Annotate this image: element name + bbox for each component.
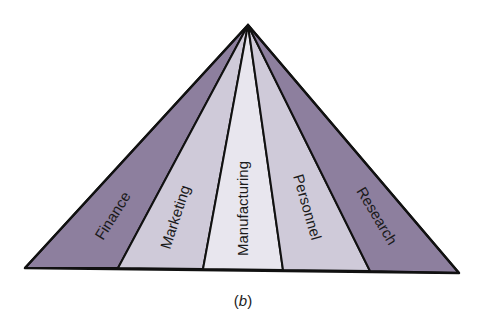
pyramid-diagram: Finance Marketing Manufacturing Personne…: [0, 0, 483, 316]
figure-caption: (b): [234, 292, 252, 309]
label-manufacturing: Manufacturing: [234, 161, 251, 256]
